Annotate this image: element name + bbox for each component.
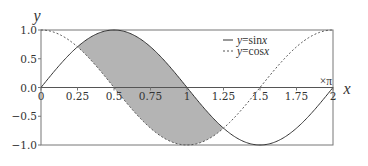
- x-tick-label: 0.5: [106, 90, 123, 102]
- x-tick-label: 1.25: [212, 90, 235, 102]
- y-axis-label: y: [31, 7, 41, 25]
- x-axis-label: x: [342, 80, 350, 97]
- y-tick-label: 0.0: [20, 82, 37, 94]
- y-tick-label: −1.0: [12, 139, 38, 151]
- y-axis-ticks: 1.00.50.0−0.5−1.0: [12, 24, 42, 151]
- x-tick-label: 1: [184, 90, 191, 102]
- x-tick-label: 1.75: [285, 90, 308, 102]
- y-tick-label: 0.5: [20, 53, 37, 65]
- legend-label: y=cosx: [236, 45, 270, 58]
- x-unit-label: ×π: [320, 75, 332, 87]
- x-axis-ticks: 00.250.50.7511.251.51.752: [38, 88, 337, 102]
- x-tick-label: 0: [38, 90, 45, 102]
- y-tick-label: 1.0: [20, 24, 37, 36]
- sin-cos-chart: 1.00.50.0−0.5−1.0 00.250.50.7511.251.51.…: [0, 0, 368, 166]
- x-tick-label: 0.25: [66, 90, 89, 102]
- y-tick-label: −0.5: [12, 110, 38, 122]
- x-tick-label: 1.5: [252, 90, 269, 102]
- x-tick-label: 2: [330, 90, 337, 102]
- x-tick-label: 0.75: [139, 90, 162, 102]
- legend: y=sinxy=cosx: [223, 34, 270, 58]
